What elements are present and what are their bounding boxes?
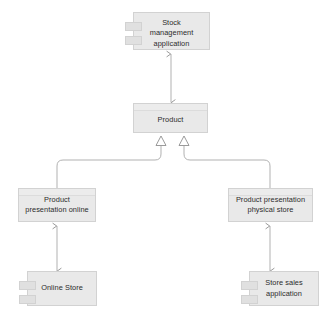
connector-presentation-store-to-product — [179, 136, 270, 188]
component-stock-management-application[interactable]: Stock management application — [133, 12, 210, 50]
component-tab-upper-icon — [19, 281, 36, 290]
connector-presentation-online-to-product — [57, 136, 166, 188]
component-product-presentation-physical-store[interactable]: Product presentation physical store — [228, 188, 313, 222]
component-tab-lower-icon — [19, 295, 36, 304]
component-label: Product — [154, 115, 188, 125]
component-label: Product presentation physical store — [232, 195, 309, 216]
component-label: Store sales application — [261, 278, 307, 299]
component-label: Product presentation online — [21, 195, 92, 216]
component-tab-lower-icon — [241, 295, 258, 304]
component-tab-upper-icon — [125, 22, 142, 31]
component-online-store[interactable]: Online Store — [27, 271, 97, 306]
component-store-sales-application[interactable]: Store sales application — [249, 271, 319, 306]
component-tab-upper-icon — [241, 281, 258, 290]
component-tab-lower-icon — [125, 36, 142, 45]
component-label: Stock management application — [146, 18, 198, 49]
component-header-bar — [134, 104, 207, 111]
component-label: Online Store — [37, 283, 87, 293]
uml-component-diagram: Stock management application Product Pro… — [0, 0, 328, 324]
component-product[interactable]: Product — [133, 103, 208, 133]
component-product-presentation-online[interactable]: Product presentation online — [18, 188, 96, 222]
